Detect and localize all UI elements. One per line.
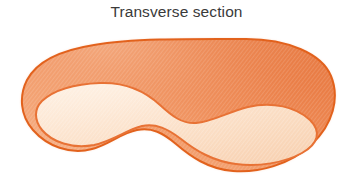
figure-root: Transverse section: [0, 0, 353, 183]
outer-cortex-region: [0, 0, 353, 183]
outer-region-texture: [0, 0, 353, 183]
transverse-section-illustration: [0, 0, 353, 183]
